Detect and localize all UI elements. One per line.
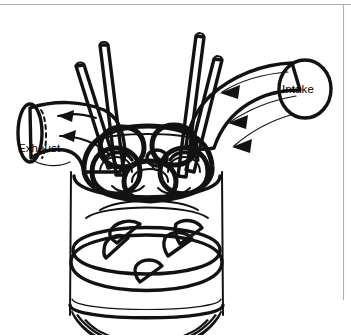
piston-body bbox=[71, 235, 222, 291]
cylinder-bottom-inner-edge bbox=[72, 299, 221, 310]
cylinder-wall-right bbox=[222, 172, 223, 315]
intake-port bbox=[186, 60, 331, 149]
diagram-canvas: Intake Exhaust bbox=[0, 0, 351, 336]
valve-relief-pocket-5 bbox=[135, 260, 162, 282]
piston-upper-contour bbox=[86, 208, 208, 219]
exhaust-label: Exhaust bbox=[18, 142, 61, 154]
exhaust-arrow-head-2 bbox=[60, 130, 76, 142]
exhaust-arrow-head-1 bbox=[58, 110, 74, 122]
exhaust-pipe-lower-contour bbox=[34, 161, 70, 166]
engine-cylinder-head-diagram: Intake Exhaust bbox=[0, 0, 351, 336]
intake-label: Intake bbox=[282, 83, 314, 95]
piston-crown bbox=[71, 201, 222, 291]
intake-arrow-head-3 bbox=[232, 139, 252, 153]
cylinder-wall-left bbox=[70, 172, 71, 315]
cylinder-body bbox=[70, 172, 223, 318]
